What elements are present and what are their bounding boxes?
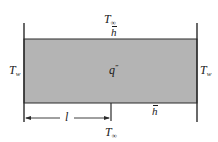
symbol: T: [200, 63, 207, 77]
left-wall-temperature-label: Tw: [9, 64, 20, 78]
subscript: ∞: [112, 132, 117, 140]
top-heat-transfer-coefficient-label: h: [111, 27, 117, 38]
symbol: h: [152, 106, 158, 117]
right-wall-temperature-label: Tw: [200, 64, 211, 78]
subscript: w: [16, 70, 21, 78]
heat-generation-label: q‴: [109, 64, 118, 76]
symbol: l: [65, 110, 68, 124]
symbol: h: [111, 27, 117, 38]
arrowhead-right-icon: [104, 116, 110, 120]
symbol: T: [104, 12, 111, 26]
arrowhead-left-icon: [25, 116, 31, 120]
top-ambient-temperature-label: T∞: [104, 13, 116, 27]
symbol: T: [9, 63, 16, 77]
bottom-heat-transfer-coefficient-label: h: [152, 106, 158, 117]
bottom-ambient-temperature-label: T∞: [105, 126, 117, 140]
subscript: w: [207, 70, 212, 78]
superscript: ‴: [115, 63, 118, 71]
symbol: T: [105, 125, 112, 139]
dimension-length-label: l: [65, 111, 68, 123]
